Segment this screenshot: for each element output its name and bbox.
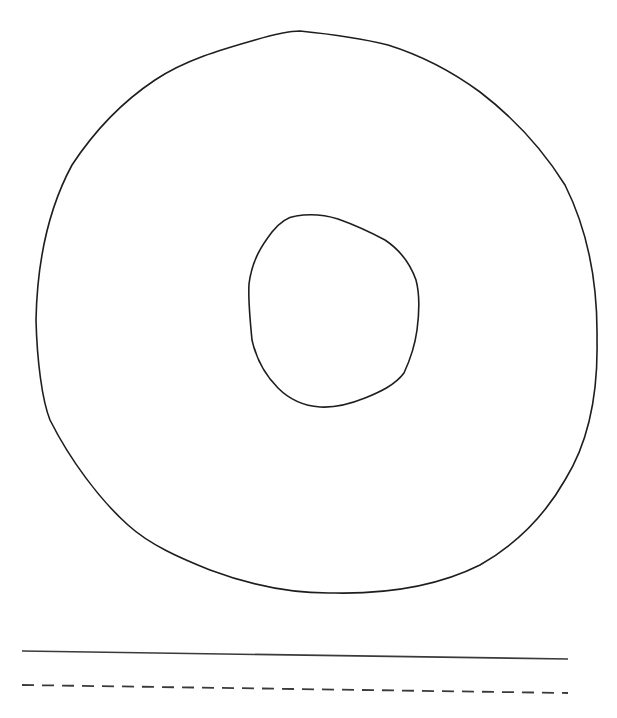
writing-baseline-solid xyxy=(22,651,568,659)
writing-guideline-dashed xyxy=(22,685,568,693)
letter-o-drawing xyxy=(0,0,617,718)
worksheet-canvas: Hand-drawn letter O tracing worksheet xyxy=(0,0,617,718)
outer-ring-outline xyxy=(36,31,597,593)
inner-ring-outline xyxy=(249,215,419,407)
